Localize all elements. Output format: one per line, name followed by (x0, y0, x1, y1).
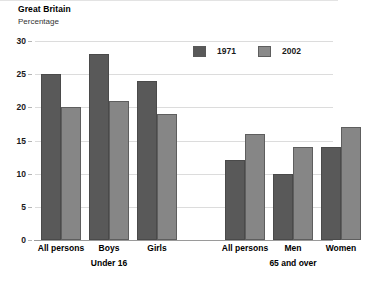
chart-title: Great Britain (18, 4, 71, 14)
y-axis-tick-label: 30 (0, 36, 26, 46)
y-axis-tick-label: 20 (0, 102, 26, 112)
x-axis-line (34, 240, 333, 241)
bar (89, 54, 109, 240)
bar (293, 147, 313, 240)
x-axis-group-label: Under 16 (59, 258, 159, 268)
y-axis-tick-label: 15 (0, 136, 26, 146)
bar (321, 147, 341, 240)
y-axis: 051015202530 (0, 41, 32, 240)
bar (137, 81, 157, 240)
bar (273, 174, 293, 240)
x-axis-category-labels: All personsBoysGirlsAll personsMenWomen (0, 243, 338, 257)
bar (341, 127, 361, 240)
y-axis-tick-mark (28, 74, 32, 75)
y-axis-tick-mark (28, 174, 32, 175)
y-axis-tick-mark (28, 41, 32, 42)
bar (109, 101, 129, 240)
y-axis-tick-mark (28, 240, 32, 241)
x-axis-tick-label: Girls (117, 243, 197, 253)
x-axis-group-labels: Under 1665 and over (0, 258, 338, 272)
gridline (35, 41, 333, 42)
y-axis-tick-mark (28, 207, 32, 208)
bar (61, 107, 81, 240)
x-axis-group-label: 65 and over (243, 258, 343, 268)
y-axis-tick-label: 25 (0, 69, 26, 79)
y-axis-tick-label: 10 (0, 169, 26, 179)
chart-subtitle: Percentage (18, 17, 59, 26)
bar (41, 74, 61, 240)
y-axis-tick-label: 5 (0, 202, 26, 212)
top-divider (0, 0, 338, 1)
bar (157, 114, 177, 240)
x-axis-tick-label: Women (301, 243, 365, 253)
y-axis-tick-mark (28, 141, 32, 142)
bar (245, 134, 265, 240)
bar (225, 160, 245, 240)
plot-area (35, 41, 333, 240)
gridline (35, 74, 333, 75)
y-axis-tick-mark (28, 107, 32, 108)
